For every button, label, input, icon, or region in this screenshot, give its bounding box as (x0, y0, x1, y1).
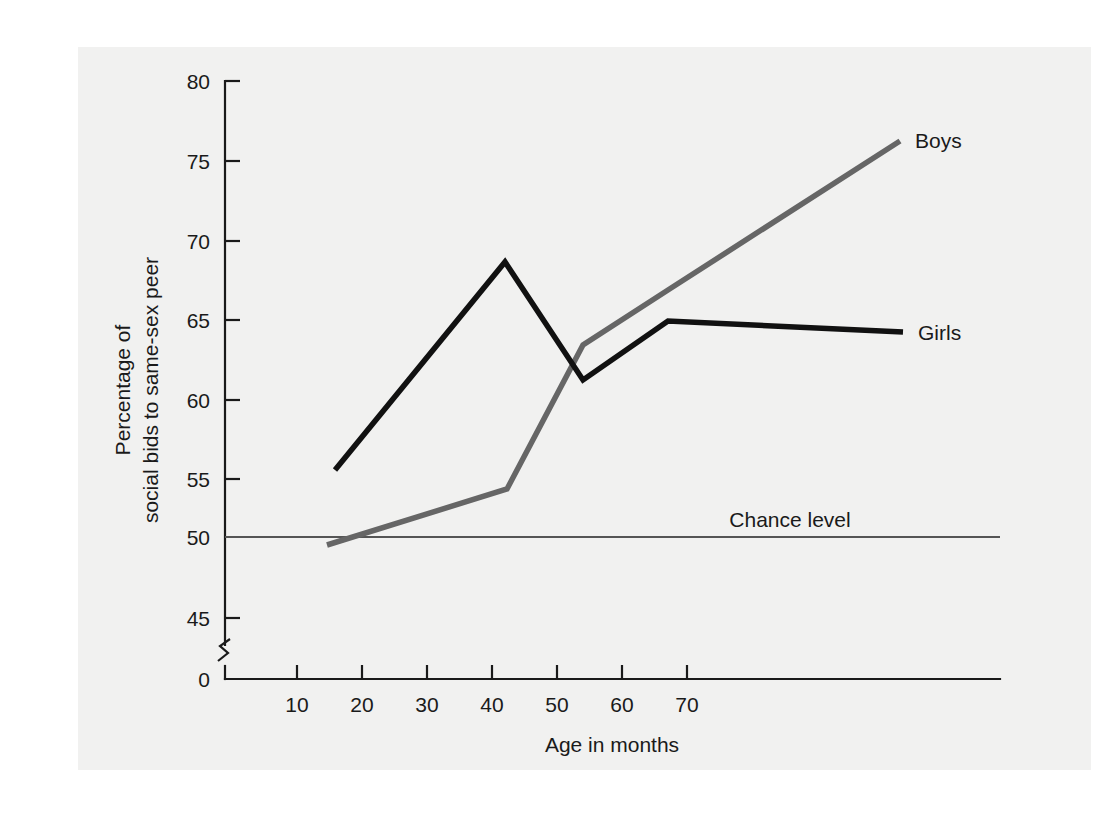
y-axis-title-line2: social bids to same-sex peer (139, 257, 162, 523)
y-tick-label-60: 60 (187, 389, 210, 412)
y-tick-label-45: 45 (187, 607, 210, 630)
x-tick-label-60: 60 (610, 693, 633, 716)
line-chart: 80 75 70 65 60 55 50 45 0 10 20 30 40 50… (0, 0, 1109, 815)
y-axis-group: 80 75 70 65 60 55 50 45 0 (187, 70, 240, 691)
y-axis-break-icon (218, 639, 230, 661)
figure-root: 80 75 70 65 60 55 50 45 0 10 20 30 40 50… (0, 0, 1109, 815)
series-line-girls (335, 262, 903, 470)
x-tick-label-50: 50 (545, 693, 568, 716)
y-tick-label-0: 0 (198, 668, 210, 691)
x-tick-label-70: 70 (675, 693, 698, 716)
x-tick-label-30: 30 (415, 693, 438, 716)
y-axis-title-group: Percentage of social bids to same-sex pe… (111, 257, 162, 523)
x-axis-title: Age in months (545, 733, 679, 756)
x-tick-label-10: 10 (285, 693, 308, 716)
series-group (327, 141, 903, 545)
x-tick-label-20: 20 (350, 693, 373, 716)
y-tick-label-70: 70 (187, 230, 210, 253)
chance-level-label: Chance level (729, 508, 850, 531)
y-tick-label-80: 80 (187, 70, 210, 93)
series-label-girls: Girls (918, 321, 961, 344)
y-tick-label-65: 65 (187, 309, 210, 332)
series-labels-group: Boys Girls (915, 129, 962, 344)
series-label-boys: Boys (915, 129, 962, 152)
chance-level-group: Chance level (225, 508, 1000, 537)
x-tick-label-40: 40 (480, 693, 503, 716)
x-axis-group: 10 20 30 40 50 60 70 Age in months (225, 665, 1000, 756)
y-tick-label-75: 75 (187, 150, 210, 173)
y-tick-label-50: 50 (187, 526, 210, 549)
series-line-boys (327, 141, 900, 545)
y-tick-label-55: 55 (187, 468, 210, 491)
y-axis-title-line1: Percentage of (111, 324, 134, 455)
